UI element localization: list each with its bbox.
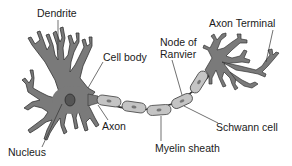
label-node-of-ranvier-line1: Node of	[160, 36, 197, 48]
myelin-sheath	[96, 69, 209, 116]
label-nucleus: Nucleus	[8, 146, 46, 158]
label-cell-body: Cell body	[103, 51, 147, 63]
label-axon: Axon	[102, 120, 126, 132]
neuron-diagram: Dendrite Cell body Node of Ranvier Axon …	[0, 0, 292, 166]
axon-terminal	[203, 33, 279, 90]
label-dendrite: Dendrite	[37, 7, 77, 19]
nucleus	[65, 94, 75, 106]
label-node-of-ranvier-line2: Ranvier	[160, 48, 196, 60]
label-schwann-cell: Schwann cell	[216, 121, 278, 133]
label-myelin-sheath: Myelin sheath	[155, 142, 220, 154]
label-axon-terminal: Axon Terminal	[209, 17, 275, 29]
dendrites	[22, 27, 99, 140]
